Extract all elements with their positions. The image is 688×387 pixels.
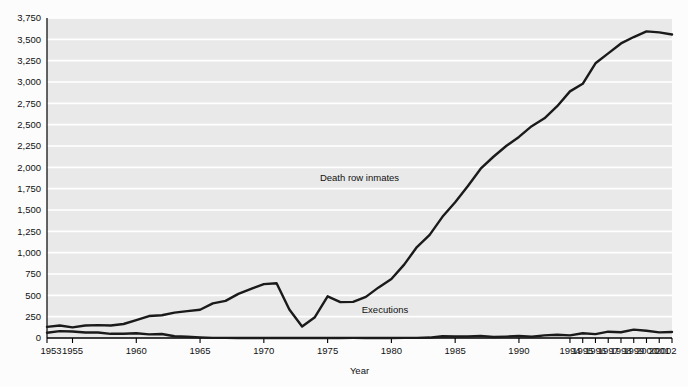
y-tick-label: 1,500 [17,204,41,215]
x-axis-title: Year [350,365,369,376]
y-tick-label: 1,250 [17,226,41,237]
x-tick-label: 2002 [655,345,676,356]
y-tick-label: 2,500 [17,119,41,130]
x-tick-label: 1960 [126,345,147,356]
y-tick-label: 2,250 [17,140,41,151]
x-tick-label: 1985 [445,345,466,356]
y-tick-label: 250 [25,311,41,322]
y-tick-label: 3,500 [17,34,41,45]
x-axis-labels: 1953195519601965197019751980198519901994… [40,338,676,356]
series-annotation-label: Death row inmates [320,172,399,183]
x-tick-label: 1953 [40,345,61,356]
x-tick-label: 1975 [317,345,338,356]
series-annotation-label: Executions [362,304,409,315]
y-tick-label: 3,250 [17,55,41,66]
y-tick-label: 3,000 [17,76,41,87]
y-tick-label: 3,750 [17,12,41,23]
x-tick-label: 1980 [381,345,402,356]
y-tick-label: 1,000 [17,247,41,258]
x-tick-label: 1955 [62,345,83,356]
chart-container: 02505007501,0001,2501,5001,7502,0002,250… [0,0,688,387]
y-tick-label: 0 [36,332,41,343]
y-axis-labels: 02505007501,0001,2501,5001,7502,0002,250… [17,12,41,343]
x-tick-label: 1965 [189,345,210,356]
y-tick-label: 2,000 [17,162,41,173]
y-tick-label: 500 [25,290,41,301]
x-tick-label: 1990 [508,345,529,356]
x-tick-label: 1970 [253,345,274,356]
y-tick-label: 750 [25,268,41,279]
y-tick-label: 1,750 [17,183,41,194]
line-chart: 02505007501,0001,2501,5001,7502,0002,250… [0,0,688,387]
y-tick-label: 2,750 [17,98,41,109]
